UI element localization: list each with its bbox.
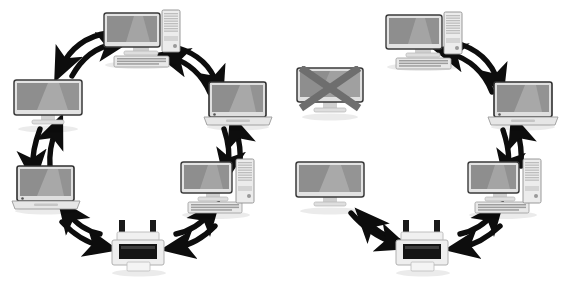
printer-icon (105, 218, 173, 278)
desktop-tower-icon (178, 158, 258, 220)
laptop-icon (202, 80, 274, 132)
printer-icon (389, 218, 457, 278)
laptop-icon (10, 164, 82, 216)
monitor-icon (294, 160, 366, 216)
node-monitor-disabled-right-group[interactable] (295, 66, 365, 126)
node-desktop-tower-top-left-group[interactable] (100, 8, 182, 74)
node-laptop-upper-right-group[interactable] (202, 80, 274, 136)
desktop-tower-icon (100, 8, 182, 70)
node-laptop-upper-right-group[interactable] (486, 80, 560, 136)
diagram-canvas: Desktop computer with tower Monitor Lapt… (0, 0, 562, 282)
monitor-disabled-icon (295, 66, 365, 122)
node-printer-bottom-right-group[interactable] (389, 218, 457, 282)
arrow-top-to-upperright (178, 48, 217, 84)
desktop-tower-icon (382, 10, 464, 72)
network-group-broken-ring (281, 0, 562, 282)
network-group-complete-ring (0, 0, 281, 282)
monitor-icon (12, 78, 84, 134)
node-monitor-lower-left-group[interactable] (294, 160, 366, 220)
node-laptop-lower-left-group[interactable] (10, 164, 82, 220)
node-desktop-tower-lower-right-group[interactable] (178, 158, 258, 224)
node-desktop-tower-lower-right-group[interactable] (465, 158, 545, 224)
node-monitor-upper-left-group[interactable] (12, 78, 84, 138)
desktop-tower-icon (465, 158, 545, 220)
node-printer-bottom-left-group[interactable] (105, 218, 173, 282)
laptop-icon (486, 80, 560, 132)
node-desktop-tower-top-right-group[interactable] (382, 10, 464, 76)
